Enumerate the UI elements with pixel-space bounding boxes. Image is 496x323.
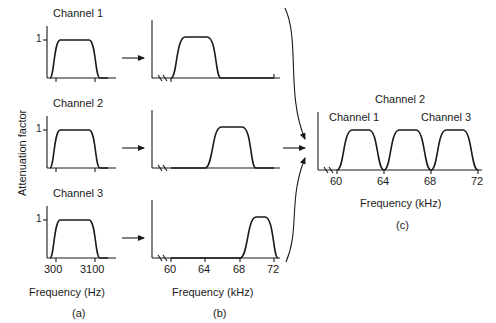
panel-c-band-label-channel-1: Channel 1 xyxy=(329,112,379,123)
y-axis-label: Attenuation factor xyxy=(16,110,28,196)
panel-c-band-2 xyxy=(384,130,431,170)
panel-c-x-tick-72: 72 xyxy=(471,176,483,187)
panel-c-caption: (c) xyxy=(396,220,409,231)
panel-c-band-label-channel-2: Channel 2 xyxy=(375,94,425,105)
arrow-b-to-c-bottom xyxy=(286,158,305,262)
fdm-figure: Attenuation factor Channel 1 Channel 2 C… xyxy=(0,0,496,323)
panel-b-x-axis-label: Frequency (kHz) xyxy=(172,287,253,298)
arrow-b-to-c-top xyxy=(285,8,305,139)
panel-b-row2-axes xyxy=(152,110,280,171)
panel-c-x-axis-label: Frequency (kHz) xyxy=(360,198,441,209)
panel-b-row3-axes xyxy=(152,200,280,262)
panel-a-row2-curve xyxy=(50,130,108,168)
panel-c-x-tick-64: 64 xyxy=(377,176,389,187)
panel-c-x-tick-68: 68 xyxy=(424,176,436,187)
panel-a-row3-axes xyxy=(43,206,116,262)
panel-a-caption: (a) xyxy=(72,308,85,319)
panel-a-row1-curve xyxy=(50,40,108,78)
panel-a-row3-curve xyxy=(50,220,108,258)
panel-b-row1-curve xyxy=(171,37,274,78)
panel-a-row2-axes xyxy=(43,116,116,172)
panel-b-x-tick-60: 60 xyxy=(164,264,176,275)
panel-b-row1-axes xyxy=(152,20,280,82)
panel-c-band-1 xyxy=(337,130,384,170)
panel-a-row1-title: Channel 1 xyxy=(53,8,103,19)
panel-b-caption: (b) xyxy=(213,308,226,319)
panel-b-x-tick-68: 68 xyxy=(233,264,245,275)
panel-c-x-tick-60: 60 xyxy=(330,176,342,187)
panel-b-x-tick-72: 72 xyxy=(267,264,279,275)
panel-a-row1-y-tick: 1 xyxy=(36,34,42,44)
panel-a-row1-axes xyxy=(43,26,116,82)
panel-b-x-tick-64: 64 xyxy=(198,264,210,275)
panel-b-row2-curve xyxy=(171,127,274,168)
panel-a-row3-title: Channel 3 xyxy=(53,188,103,199)
panel-a-x-tick-3100: 3100 xyxy=(80,264,104,275)
panel-a-x-tick-300: 300 xyxy=(44,264,62,275)
panel-a-row3-y-tick: 1 xyxy=(36,214,42,224)
panel-a-x-axis-label: Frequency (Hz) xyxy=(29,287,105,298)
panel-a-row2-title: Channel 2 xyxy=(53,98,103,109)
panel-c-band-label-channel-3: Channel 3 xyxy=(421,112,471,123)
panel-a-row2-y-tick: 1 xyxy=(36,124,42,134)
figure-vector xyxy=(0,0,496,323)
panel-b-row3-curve xyxy=(171,217,278,258)
panel-c-band-3 xyxy=(431,130,478,170)
